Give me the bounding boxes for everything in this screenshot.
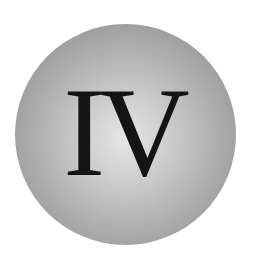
roman-numeral: IV xyxy=(63,68,184,196)
numeral-badge: IV xyxy=(15,24,236,245)
